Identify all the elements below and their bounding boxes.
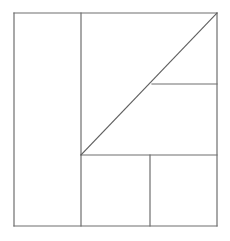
region-left-tall-rectangle	[14, 13, 81, 226]
geometric-figure	[0, 0, 230, 241]
region-right-small-rectangle	[152, 84, 217, 155]
figure-container	[0, 0, 230, 241]
region-bottom-right-square	[150, 155, 217, 226]
region-bottom-left-square	[81, 155, 150, 226]
